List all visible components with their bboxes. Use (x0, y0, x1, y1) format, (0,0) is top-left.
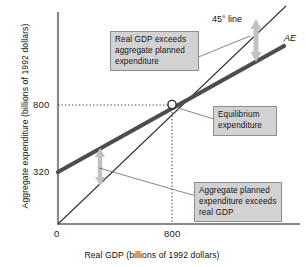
callout-equilibrium-line-2: expenditure (218, 121, 272, 132)
y-axis-title: Aggregate expenditure (billions of 1992 … (20, 24, 30, 209)
callout-gdp-exceeds-ae: Real GDP exceeds aggregate planned expen… (110, 31, 199, 71)
forty-five-degree-line-label: 45° line (212, 14, 242, 24)
y-tick-label-320: 320 (33, 166, 49, 177)
leader-equilibrium (178, 108, 214, 119)
chart-figure: Aggregate expenditure (billions of 1992 … (0, 0, 306, 267)
leader-gdp-exceeds-ae (196, 36, 250, 58)
callout-equilibrium-line-1: Equilibrium (218, 110, 272, 121)
callout-ae-exceeds-gdp-line-1: Aggregate planned (199, 186, 277, 197)
y-axis-title-wrapper: Aggregate expenditure (billions of 1992 … (14, 16, 32, 216)
x-axis-title: Real GDP (billions of 1992 dollars) (84, 250, 219, 260)
gap-arrow-upper (251, 19, 262, 62)
callout-ae-exceeds-gdp-line-3: real GDP (199, 208, 277, 219)
callout-equilibrium-expenditure: Equilibrium expenditure (213, 106, 277, 136)
callout-gdp-exceeds-ae-line-2: aggregate planned (115, 46, 194, 57)
callout-ae-exceeds-gdp: Aggregate planned expenditure exceeds re… (194, 182, 282, 222)
ae-line-label: AE (284, 33, 296, 43)
callout-ae-exceeds-gdp-line-2: expenditure exceeds (199, 197, 277, 208)
y-tick-label-800: 800 (33, 99, 49, 110)
callout-gdp-exceeds-ae-line-3: expenditure (115, 57, 194, 68)
x-tick-label-0: 0 (54, 228, 59, 239)
callout-gdp-exceeds-ae-line-1: Real GDP exceeds (115, 35, 194, 46)
equilibrium-point-marker (168, 100, 176, 108)
leader-ae-exceeds-gdp (99, 168, 196, 196)
x-tick-label-800: 800 (164, 228, 180, 239)
